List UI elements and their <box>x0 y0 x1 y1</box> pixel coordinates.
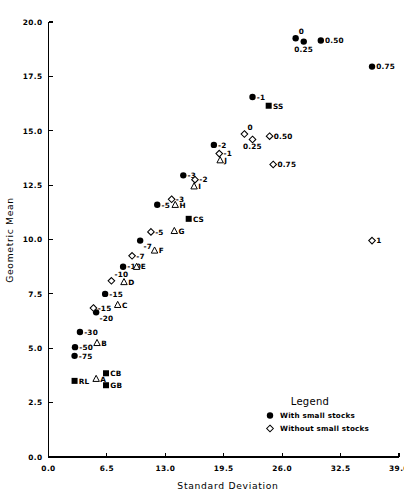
filled-circle-marker <box>318 37 324 43</box>
filled-square-marker <box>266 103 272 109</box>
data-point-label: I <box>198 182 201 191</box>
data-point[interactable]: -5 <box>148 228 164 237</box>
data-point-label: 0 <box>299 27 304 36</box>
data-point-label: F <box>159 246 164 255</box>
data-point-label: -7 <box>144 242 153 251</box>
data-point-label: -10 <box>114 270 128 279</box>
open-triangle-marker <box>114 301 120 307</box>
legend-entry[interactable]: With small stocks <box>267 411 355 420</box>
data-point-label: -2 <box>218 141 227 150</box>
data-point[interactable]: 0.50 <box>318 36 344 45</box>
data-point[interactable]: 0.50 <box>266 132 292 141</box>
data-point[interactable]: J <box>217 156 227 165</box>
data-point-label: CB <box>110 369 122 378</box>
data-point[interactable]: 0.25 <box>243 136 262 151</box>
data-point[interactable]: SS <box>266 102 284 111</box>
series-labeled-triangles: ABCDEFGHIJ <box>93 156 227 384</box>
open-diamond-marker <box>266 133 273 140</box>
filled-circle-marker <box>77 329 83 335</box>
y-tick-label: 15.0 <box>23 127 43 136</box>
data-point-label: 0 <box>247 123 252 132</box>
x-tick-label: 26.0 <box>272 464 292 473</box>
open-diamond-marker <box>148 229 155 236</box>
data-point-label: 0.25 <box>243 142 262 151</box>
y-tick-label: 5.0 <box>28 344 42 353</box>
y-axis-title: Geometric Mean <box>4 197 15 283</box>
data-point[interactable]: -15 <box>90 304 111 313</box>
data-point[interactable]: 0.75 <box>270 160 296 169</box>
filled-square-marker <box>72 378 78 384</box>
data-point[interactable]: -2 <box>211 141 227 150</box>
filled-circle-marker <box>180 172 186 178</box>
legend-entry-label: With small stocks <box>280 411 355 420</box>
data-point[interactable]: -5 <box>154 201 170 210</box>
data-point-label: -30 <box>84 328 98 337</box>
filled-circle-marker <box>102 291 108 297</box>
data-point[interactable]: D <box>121 278 135 287</box>
legend-title: Legend <box>291 396 330 407</box>
data-point[interactable]: 1 <box>369 236 382 245</box>
open-diamond-marker <box>270 161 277 168</box>
data-point-label: -50 <box>79 343 93 352</box>
data-point-label: 0.25 <box>294 45 313 54</box>
y-tick-label: 20.0 <box>23 18 43 27</box>
x-tick-label: 0.0 <box>41 464 55 473</box>
data-point[interactable]: -50 <box>72 343 93 352</box>
data-point-label: 0.75 <box>376 62 395 71</box>
data-point-label: -7 <box>136 252 145 261</box>
data-point[interactable]: F <box>151 246 164 255</box>
open-triangle-marker <box>171 227 177 233</box>
y-tick-label: 17.5 <box>23 72 43 81</box>
data-point-label: E <box>141 262 146 271</box>
data-point-label: -75 <box>79 352 93 361</box>
y-tick-label: 2.5 <box>28 398 42 407</box>
data-point-label: -20 <box>100 314 114 323</box>
filled-circle-marker <box>249 94 255 100</box>
data-point-label: H <box>179 201 185 210</box>
data-point[interactable]: H <box>172 201 186 210</box>
x-tick-label: 6.5 <box>100 464 114 473</box>
open-triangle-marker <box>94 339 100 345</box>
data-point-label: B <box>101 339 107 348</box>
chart-canvas: 0.06.513.019.526.032.539.0 0.02.55.07.51… <box>0 0 404 491</box>
data-point[interactable]: -30 <box>77 328 98 337</box>
data-point-label: -15 <box>98 304 112 313</box>
data-point[interactable]: -15 <box>102 290 123 299</box>
data-point-label: D <box>128 278 134 287</box>
data-point[interactable]: 0.75 <box>369 62 395 71</box>
data-point[interactable]: 0 <box>241 123 253 137</box>
data-point-label: -5 <box>155 228 164 237</box>
legend-entry[interactable]: Without small stocks <box>267 424 369 433</box>
scatter-plot-figure: 0.06.513.019.526.032.539.0 0.02.55.07.51… <box>0 0 404 491</box>
filled-circle-legend-marker <box>267 412 273 418</box>
data-point-label: 0.75 <box>277 160 296 169</box>
open-triangle-marker <box>151 247 157 253</box>
open-diamond-marker <box>129 253 136 260</box>
data-point[interactable]: RL <box>72 377 90 386</box>
y-tick-label: 7.5 <box>28 290 42 299</box>
data-point[interactable]: -7 <box>137 237 152 251</box>
data-point[interactable]: I <box>191 182 201 191</box>
data-point[interactable]: CS <box>186 215 204 224</box>
open-triangle-marker <box>121 279 127 285</box>
filled-square-marker <box>103 370 109 376</box>
data-point-label: CS <box>193 215 204 224</box>
data-point[interactable]: -7 <box>129 252 145 261</box>
data-point[interactable]: -75 <box>71 352 92 361</box>
data-point[interactable]: C <box>114 301 127 310</box>
open-triangle-marker <box>217 157 223 163</box>
open-diamond-marker <box>216 150 223 157</box>
y-tick-label: 12.5 <box>23 181 43 190</box>
data-point-label: 1 <box>376 236 381 245</box>
data-point-label: GB <box>110 381 122 390</box>
open-triangle-marker <box>93 375 99 381</box>
data-point[interactable]: -1 <box>249 93 265 102</box>
filled-square-marker <box>186 216 192 222</box>
data-point[interactable]: G <box>171 227 185 236</box>
data-point[interactable]: GB <box>103 381 122 390</box>
filled-square-marker <box>103 382 109 388</box>
x-axis-title: Standard Deviation <box>177 480 278 491</box>
data-point-label: -15 <box>109 290 123 299</box>
data-point[interactable]: B <box>94 339 107 348</box>
filled-circle-marker <box>71 353 77 359</box>
